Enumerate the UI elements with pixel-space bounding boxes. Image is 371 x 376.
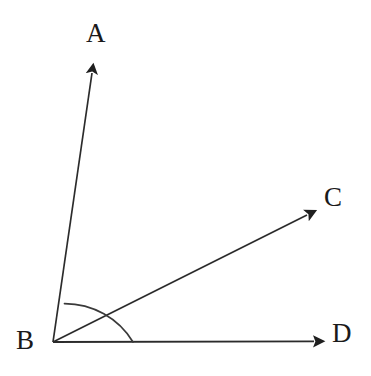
ray-BA xyxy=(53,73,92,342)
geometry-canvas xyxy=(0,0,371,376)
point-label-a: A xyxy=(86,20,106,47)
ray-BD xyxy=(53,341,314,342)
point-label-b: B xyxy=(16,327,34,354)
point-label-d: D xyxy=(332,320,352,347)
point-label-c: C xyxy=(324,184,342,211)
ray-BC xyxy=(53,215,307,342)
geometry-figure: A B C D xyxy=(0,0,371,376)
angle-arc-ABD xyxy=(65,304,134,342)
